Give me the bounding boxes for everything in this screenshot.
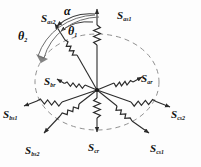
spoke-s-cs1 [97, 90, 149, 133]
axis-label-s-as2: Sas2 [41, 9, 55, 25]
axis-label-s-as1: Sas1 [117, 6, 131, 22]
angle-label-theta1: θ1 [68, 22, 77, 38]
spoke-s-as1 [94, 9, 101, 90]
spoke-s-bs2 [44, 90, 97, 133]
angle-label-theta2: θ2 [18, 27, 27, 43]
spoke-s-br [57, 79, 97, 90]
axis-label-s-bs1: Sbs1 [3, 105, 17, 121]
axis-label-s-bs2: Sbs2 [25, 141, 39, 157]
winding-axis-diagram: α θ1 θ2 Sas1 Sas2 Sar Sbr Sbs1 Scs2 Sbs2… [0, 0, 201, 167]
axis-label-s-cs2: Scs2 [171, 105, 185, 121]
axis-label-s-ar: Sar [141, 69, 152, 85]
axis-label-s-cs1: Scs1 [150, 139, 164, 155]
spoke-s-cr [94, 90, 101, 132]
origin-hub [95, 88, 99, 92]
spoke-s-ar [97, 77, 142, 90]
angle-label-alpha: α [64, 2, 71, 18]
axis-label-s-br: Sbr [44, 72, 55, 88]
axis-label-s-cr: Scr [88, 138, 99, 154]
